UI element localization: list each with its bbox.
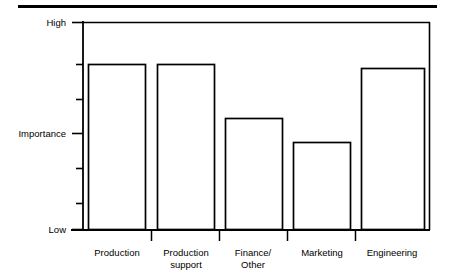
x-label-finance-other-line1: Finance/ (235, 247, 272, 258)
bar-production (89, 65, 146, 230)
header-rule (18, 5, 437, 8)
x-label-engineering: Engineering (367, 247, 418, 258)
bar-finance-other (226, 119, 283, 230)
x-label-marketing: Marketing (301, 247, 343, 258)
x-label-finance-other-line2: Other (241, 259, 265, 270)
chart-figure: High Importance Low Production Productio… (0, 0, 450, 279)
bar-engineering (362, 69, 425, 230)
bar-marketing (294, 143, 351, 230)
y-axis-title: Importance (18, 128, 66, 139)
y-axis-low-label: Low (49, 224, 67, 235)
y-axis-high-label: High (46, 17, 66, 28)
x-label-production: Production (94, 247, 139, 258)
x-label-production-support-line1: Production (163, 247, 208, 258)
x-label-production-support-line2: support (170, 259, 202, 270)
bar-chart-svg: High Importance Low Production Productio… (0, 0, 450, 279)
bar-production-support (158, 65, 215, 230)
